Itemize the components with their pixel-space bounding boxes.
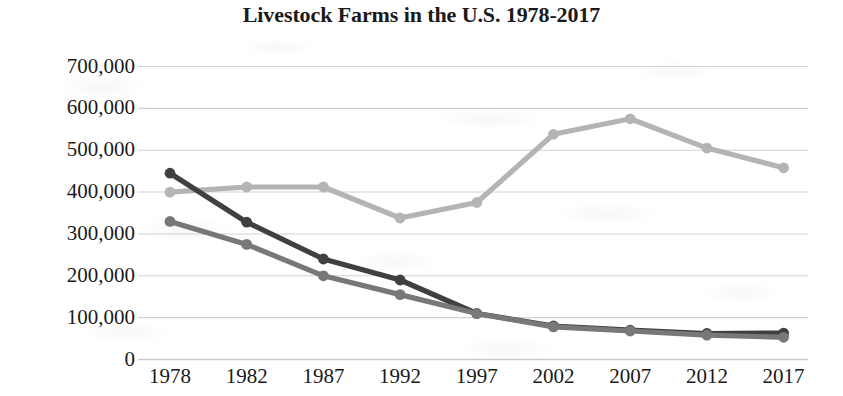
data-point bbox=[165, 216, 176, 227]
data-point bbox=[318, 270, 329, 281]
data-point bbox=[625, 326, 636, 337]
chart-title: Livestock Farms in the U.S. 1978-2017 bbox=[0, 2, 843, 28]
data-point bbox=[778, 332, 789, 343]
data-point bbox=[778, 162, 789, 173]
series-line-series-medium-gray bbox=[170, 221, 784, 337]
data-point bbox=[318, 254, 329, 265]
data-point bbox=[395, 289, 406, 300]
data-point bbox=[471, 308, 482, 319]
data-point bbox=[471, 197, 482, 208]
data-point bbox=[318, 182, 329, 193]
data-point bbox=[702, 330, 713, 341]
data-point bbox=[241, 239, 252, 250]
data-point bbox=[395, 213, 406, 224]
chart-plot-area bbox=[0, 0, 843, 396]
data-point bbox=[241, 182, 252, 193]
chart-svg bbox=[0, 0, 843, 396]
data-point bbox=[625, 113, 636, 124]
data-point bbox=[241, 217, 252, 228]
data-point bbox=[702, 143, 713, 154]
data-point bbox=[165, 168, 176, 179]
data-point bbox=[165, 187, 176, 198]
data-point bbox=[548, 322, 559, 333]
data-point bbox=[548, 129, 559, 140]
data-point bbox=[395, 275, 406, 286]
